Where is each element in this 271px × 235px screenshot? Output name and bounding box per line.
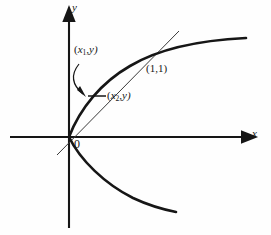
x-axis-label: x (252, 128, 257, 139)
point-label-x1: (x1,y) (74, 44, 98, 55)
point-label-x2: (x2,y) (107, 90, 131, 101)
variable-x: x (111, 89, 116, 101)
variable-x: x (78, 43, 83, 55)
subscript-2: 2 (116, 94, 120, 103)
subscript-1: 1 (83, 48, 87, 57)
figure-canvas (0, 0, 271, 235)
comma-y-paren: ,y) (86, 43, 97, 55)
origin-label: 0 (74, 138, 80, 150)
callout-arrow-tip (77, 86, 86, 97)
comma-y-paren: ,y) (119, 89, 130, 101)
parabola-lower-branch (69, 137, 176, 212)
math-figure: y x 0 (x1,y) (x2,y) (1,1) (0, 0, 271, 235)
point-label-intersection: (1,1) (146, 63, 167, 74)
y-axis-label: y (72, 2, 77, 13)
